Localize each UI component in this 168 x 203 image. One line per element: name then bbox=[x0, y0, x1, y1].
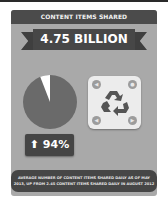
pie-chart bbox=[22, 74, 78, 130]
total-value: 4.75 BILLION bbox=[33, 29, 135, 50]
share-icon: ◀ bbox=[92, 116, 101, 125]
share-icon: ▶ bbox=[128, 116, 137, 125]
growth-percent: 94% bbox=[43, 138, 69, 151]
section-header: CONTENT ITEMS SHARED bbox=[11, 10, 157, 24]
footer-line-2: 2013, UP FROM 2.45 CONTENT ITEMS SHARED … bbox=[11, 181, 157, 187]
growth-stat: ⬆ 94% bbox=[25, 134, 74, 156]
recycle-icon-box: ◀ ● ◀ ▶ bbox=[88, 76, 141, 129]
up-arrow-icon: ⬆ bbox=[30, 138, 39, 151]
top-border bbox=[0, 0, 168, 2]
recycle-icon bbox=[100, 87, 130, 117]
ribbon-banner: 4.75 BILLION bbox=[27, 29, 141, 51]
footer-note: AVERAGE NUMBER OF CONTENT ITEMS SHARED D… bbox=[11, 170, 157, 192]
